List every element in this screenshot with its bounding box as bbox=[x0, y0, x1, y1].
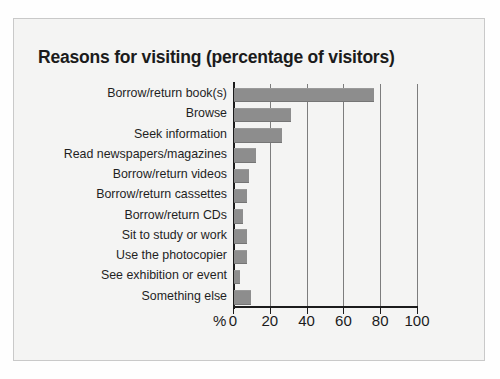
bar-row: Sit to study or work bbox=[0, 226, 500, 246]
category-label: Use the photocopier bbox=[0, 248, 227, 262]
bar bbox=[234, 128, 282, 143]
bar bbox=[234, 290, 251, 305]
bar bbox=[234, 148, 256, 163]
category-label: Something else bbox=[0, 289, 227, 303]
bar-row: Something else bbox=[0, 287, 500, 307]
bar bbox=[234, 189, 247, 204]
percent-symbol-label: % bbox=[213, 312, 226, 329]
figure-container: Reasons for visiting (percentage of visi… bbox=[0, 0, 500, 379]
bar-row: Borrow/return cassettes bbox=[0, 185, 500, 205]
bar-row: Seek information bbox=[0, 125, 500, 145]
x-tick-label: 0 bbox=[229, 312, 237, 329]
category-label: Sit to study or work bbox=[0, 228, 227, 242]
bar-row: Borrow/return videos bbox=[0, 165, 500, 185]
x-tick-label: 40 bbox=[298, 312, 315, 329]
category-label: Read newspapers/magazines bbox=[0, 147, 227, 161]
bar bbox=[234, 270, 240, 285]
x-tick-label: 100 bbox=[404, 312, 429, 329]
bar-row: Browse bbox=[0, 104, 500, 124]
bar-row: Borrow/return book(s) bbox=[0, 84, 500, 104]
bar bbox=[234, 108, 291, 123]
x-tick-label: 60 bbox=[335, 312, 352, 329]
bar bbox=[234, 229, 247, 244]
bar-row: See exhibition or event bbox=[0, 266, 500, 286]
category-label: See exhibition or event bbox=[0, 268, 227, 282]
bar bbox=[234, 209, 243, 224]
bar-row: Use the photocopier bbox=[0, 246, 500, 266]
chart-title: Reasons for visiting (percentage of visi… bbox=[38, 47, 395, 68]
category-label: Browse bbox=[0, 106, 227, 120]
bar-row: Borrow/return CDs bbox=[0, 206, 500, 226]
x-axis-tick-labels: 020406080100 bbox=[0, 312, 500, 334]
bar bbox=[234, 250, 247, 265]
category-label: Borrow/return CDs bbox=[0, 208, 227, 222]
category-label: Borrow/return book(s) bbox=[0, 86, 227, 100]
category-label: Borrow/return videos bbox=[0, 167, 227, 181]
bar-rows: Borrow/return book(s)BrowseSeek informat… bbox=[0, 84, 500, 307]
bar bbox=[234, 169, 249, 184]
x-tick-label: 80 bbox=[372, 312, 389, 329]
category-label: Seek information bbox=[0, 127, 227, 141]
bar bbox=[234, 88, 374, 103]
x-tick-label: 20 bbox=[261, 312, 278, 329]
category-label: Borrow/return cassettes bbox=[0, 187, 227, 201]
bar-row: Read newspapers/magazines bbox=[0, 145, 500, 165]
